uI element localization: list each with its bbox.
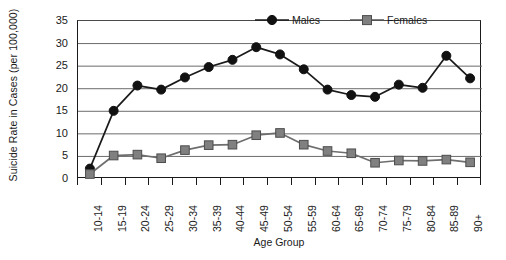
x-axis-tick: [338, 178, 339, 185]
x-axis-label-3539: 35-39: [212, 205, 223, 232]
data-point: [442, 51, 451, 60]
data-point: [109, 106, 118, 115]
x-axis-tick: [101, 178, 102, 185]
x-axis-tick: [291, 178, 292, 185]
x-axis-tick: [125, 178, 126, 185]
legend-label-females: Females: [387, 14, 427, 26]
y-axis-tick-labels: 35302520151050: [28, 0, 72, 190]
x-axis-tick: [243, 178, 244, 185]
data-point: [157, 85, 166, 94]
data-point: [323, 85, 332, 94]
x-axis-tick: [172, 178, 173, 185]
data-point: [228, 55, 237, 64]
data-point: [276, 129, 285, 138]
data-point: [276, 50, 285, 59]
x-axis-tick: [267, 178, 268, 185]
y-axis-title-text: Suicide Rate in Cases (per 100,000): [7, 9, 19, 182]
y-axis-tick-5: 5: [62, 150, 68, 161]
data-point: [204, 63, 213, 72]
data-point: [157, 154, 166, 163]
y-axis-tick-10: 10: [56, 127, 68, 138]
y-axis-tick-35: 35: [56, 15, 68, 26]
data-point: [347, 149, 356, 158]
data-point: [133, 150, 142, 159]
data-point: [252, 131, 261, 140]
data-point: [395, 156, 404, 165]
data-point: [109, 151, 118, 160]
data-point: [204, 141, 213, 150]
x-axis-label-2529: 25-29: [164, 205, 175, 232]
suicide-rate-line-chart: Suicide Rate in Cases (per 100,000) 3530…: [0, 0, 506, 260]
series-females: [86, 129, 475, 179]
x-axis-label-90: 90+: [473, 214, 484, 232]
x-axis-title: Age Group: [77, 236, 481, 248]
plot-area: [77, 20, 481, 178]
x-axis-label-4044: 40-44: [235, 205, 246, 232]
chart-legend: Males Females: [255, 12, 427, 28]
x-axis-label-4549: 45-49: [259, 205, 270, 232]
x-axis-label-1014: 10-14: [93, 205, 104, 232]
x-axis-label-1519: 15-19: [117, 205, 128, 232]
square-marker-icon: [350, 14, 384, 26]
data-point: [181, 146, 190, 155]
x-axis-tick: [362, 178, 363, 185]
data-point: [418, 83, 427, 92]
x-axis-label-6569: 65-69: [354, 205, 365, 232]
circle-marker-icon: [255, 14, 289, 26]
x-axis-tick: [315, 178, 316, 185]
x-axis-label-6064: 60-64: [331, 205, 342, 232]
data-point: [299, 140, 308, 149]
y-axis-tick-0: 0: [62, 173, 68, 184]
data-point: [347, 91, 356, 100]
x-axis-tick: [433, 178, 434, 185]
x-axis-label-5559: 55-59: [307, 205, 318, 232]
legend-label-males: Males: [292, 14, 320, 26]
x-axis-label-8084: 80-84: [426, 205, 437, 232]
x-axis-tick-labels: 10-1415-1920-2425-2930-3435-3940-4445-49…: [77, 190, 481, 234]
x-axis-tick: [480, 178, 481, 185]
x-axis-label-3034: 30-34: [188, 205, 199, 232]
x-axis-tick: [386, 178, 387, 185]
data-point: [442, 155, 451, 164]
x-axis-label-7579: 75-79: [402, 205, 413, 232]
legend-item-males: Males: [255, 14, 320, 26]
x-axis-tick: [457, 178, 458, 185]
data-point: [133, 81, 142, 90]
y-axis-title: Suicide Rate in Cases (per 100,000): [0, 0, 26, 190]
data-point: [466, 74, 475, 83]
legend-item-females: Females: [350, 14, 427, 26]
data-point: [252, 43, 261, 52]
series-males: [85, 43, 474, 173]
x-axis-label-5054: 50-54: [283, 205, 294, 232]
x-axis-label-8589: 85-89: [449, 205, 460, 232]
data-point: [228, 140, 237, 149]
data-point: [180, 73, 189, 82]
y-axis-tick-15: 15: [56, 105, 68, 116]
x-axis-tick: [77, 178, 78, 185]
data-point: [323, 147, 332, 156]
x-axis-tick: [410, 178, 411, 185]
x-axis-tick: [196, 178, 197, 185]
y-axis-tick-20: 20: [56, 82, 68, 93]
plot-svg: [78, 21, 482, 179]
y-axis-tick-25: 25: [56, 60, 68, 71]
y-axis-tick-30: 30: [56, 37, 68, 48]
x-axis-tick: [148, 178, 149, 185]
x-axis-tick: [220, 178, 221, 185]
data-point: [371, 158, 380, 167]
x-axis-label-2024: 20-24: [140, 205, 151, 232]
x-axis-label-7074: 70-74: [378, 205, 389, 232]
data-point: [394, 80, 403, 89]
data-point: [466, 158, 475, 167]
data-point: [418, 157, 427, 166]
data-point: [299, 65, 308, 74]
data-point: [371, 92, 380, 101]
x-axis-ticks: [77, 178, 481, 190]
